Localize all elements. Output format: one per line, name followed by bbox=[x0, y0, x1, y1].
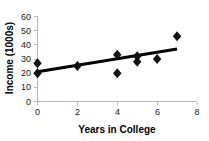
y-tick-label: 40 bbox=[21, 40, 31, 50]
y-axis-title: Income (1000s) bbox=[4, 22, 15, 94]
x-tick-label: 6 bbox=[155, 107, 160, 117]
y-tick-label: 0 bbox=[26, 97, 31, 107]
x-axis-tick-labels: 0 2 4 6 8 bbox=[35, 107, 200, 117]
x-tick-label: 8 bbox=[194, 107, 199, 117]
x-tick-label: 0 bbox=[35, 107, 40, 117]
y-tick-label: 50 bbox=[21, 26, 31, 36]
x-axis-ticks bbox=[38, 102, 198, 106]
y-tick-label: 60 bbox=[21, 12, 31, 22]
chart-canvas: 0 10 20 30 40 50 60 0 2 4 6 8 Years in C… bbox=[0, 0, 209, 141]
y-tick-label: 30 bbox=[21, 54, 31, 64]
x-tick-label: 2 bbox=[75, 107, 80, 117]
x-tick-label: 4 bbox=[115, 107, 120, 117]
y-axis-tick-labels: 0 10 20 30 40 50 60 bbox=[21, 12, 31, 107]
y-tick-label: 10 bbox=[21, 82, 31, 92]
y-tick-label: 20 bbox=[21, 68, 31, 78]
x-axis-title: Years in College bbox=[78, 124, 156, 135]
scatter-chart: 0 10 20 30 40 50 60 0 2 4 6 8 Years in C… bbox=[0, 0, 209, 141]
